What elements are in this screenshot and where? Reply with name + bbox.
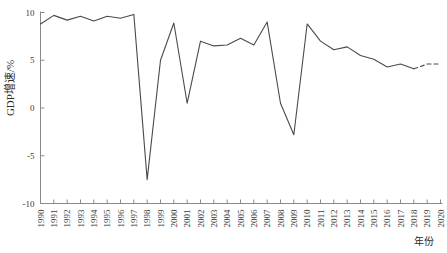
x-axis-tick-label: 1995 bbox=[102, 209, 112, 228]
x-axis-tick-label: 1991 bbox=[49, 210, 59, 228]
x-axis-tick-label: 1999 bbox=[156, 209, 166, 228]
y-axis-tick-label: -5 bbox=[27, 151, 35, 161]
x-axis-tick-label: 2011 bbox=[316, 210, 326, 228]
x-axis-title: 年份 bbox=[414, 235, 434, 247]
y-axis-tick-label: -10 bbox=[23, 199, 35, 209]
gdp-growth-line bbox=[41, 14, 414, 179]
x-axis-tick-label: 1992 bbox=[62, 210, 72, 228]
x-axis-tick-label: 2002 bbox=[196, 210, 206, 228]
x-axis-tick-label: 1996 bbox=[116, 209, 126, 228]
x-axis-tick-label: 1990 bbox=[36, 209, 46, 228]
forecast-line bbox=[414, 64, 441, 69]
y-axis-tick-label: 10 bbox=[26, 8, 36, 18]
chart-canvas: -10-50510 199019911992199319941995199619… bbox=[0, 0, 447, 253]
gdp-growth-line-chart: -10-50510 199019911992199319941995199619… bbox=[0, 0, 447, 253]
x-axis-tick-label: 2001 bbox=[182, 210, 192, 228]
x-axis-tick-label: 1993 bbox=[76, 209, 86, 228]
y-axis: -10-50510 bbox=[23, 8, 45, 209]
x-axis-tick-label: 2004 bbox=[222, 209, 232, 228]
x-axis-tick-label: 2020 bbox=[436, 209, 446, 228]
x-axis-tick-label: 2000 bbox=[169, 209, 179, 228]
x-axis: 1990199119921993199419951996199719981999… bbox=[36, 200, 446, 228]
x-axis-tick-label: 2007 bbox=[262, 209, 272, 228]
x-axis-tick-label: 2005 bbox=[236, 209, 246, 228]
x-axis-tick-label: 2018 bbox=[409, 209, 419, 228]
x-axis-tick-label: 2012 bbox=[329, 210, 339, 228]
x-axis-tick-label: 2019 bbox=[422, 209, 432, 228]
x-axis-tick-label: 2015 bbox=[369, 209, 379, 228]
x-axis-tick-label: 2006 bbox=[249, 209, 259, 228]
x-axis-tick-label: 2017 bbox=[396, 209, 406, 228]
x-axis-tick-label: 2003 bbox=[209, 209, 219, 228]
x-axis-tick-label: 2013 bbox=[342, 209, 352, 228]
x-axis-tick-label: 1997 bbox=[129, 209, 139, 228]
y-axis-tick-label: 5 bbox=[30, 55, 35, 65]
y-axis-title: GDP增速/% bbox=[3, 60, 16, 116]
x-axis-tick-label: 2009 bbox=[289, 209, 299, 228]
x-axis-tick-label: 2010 bbox=[302, 209, 312, 228]
x-axis-tick-label: 2016 bbox=[382, 209, 392, 228]
data-series-group bbox=[41, 14, 441, 179]
x-axis-tick-label: 2008 bbox=[276, 209, 286, 228]
x-axis-tick-label: 1998 bbox=[142, 209, 152, 228]
y-axis-tick-label: 0 bbox=[30, 103, 35, 113]
x-axis-tick-label: 2014 bbox=[356, 209, 366, 228]
x-axis-tick-label: 1994 bbox=[89, 209, 99, 228]
